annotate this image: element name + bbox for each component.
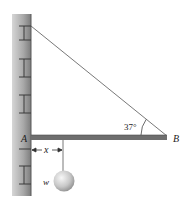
cable [31,26,167,136]
label-a: A [20,133,28,144]
diagram-canvas: A B x w 37° [0,0,188,207]
weight-ball [54,171,75,192]
label-angle: 37° [124,122,137,132]
wall [12,14,31,196]
angle-arc [141,119,146,135]
label-b: B [173,133,179,144]
label-w: w [43,177,49,187]
beam [31,135,167,140]
label-x: x [43,144,49,155]
